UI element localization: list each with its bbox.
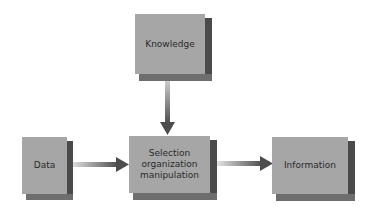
process-label-line-1: Selection	[149, 148, 190, 159]
data-label: Data	[22, 137, 67, 194]
information-label: Information	[272, 137, 348, 194]
arrow-data-to-process	[70, 157, 129, 172]
knowledge-label: Knowledge	[135, 14, 205, 74]
process-label-line-3: manipulation	[140, 170, 199, 181]
arrow-process-to-information	[216, 156, 273, 171]
process-label: Selection organization manipulation	[129, 136, 210, 193]
process-label-line-2: organization	[142, 159, 198, 170]
arrow-knowledge-to-process	[160, 72, 175, 135]
